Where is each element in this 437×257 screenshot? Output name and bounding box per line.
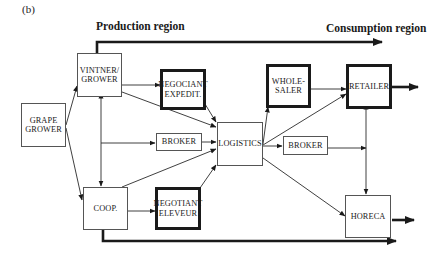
node-horeca: HORECA — [345, 195, 391, 238]
node-negotiant-eleveur: NEGOTIANTELEVEUR — [155, 187, 201, 230]
node-logistics: LOGISTICS — [217, 122, 263, 166]
node-coop: COOP. — [83, 187, 128, 230]
node-retailer: RETAILER — [346, 64, 392, 109]
node-grape-grower: GRAPEGROWER — [21, 103, 66, 147]
node-wholesaler: WHOLE-SALER — [266, 64, 311, 108]
node-negociant-expedit: NEGOCIANTEXPEDIT. — [160, 69, 206, 110]
node-broker-right: BROKER — [283, 136, 328, 155]
node-broker-left: BROKER — [156, 133, 202, 151]
node-vintner-grower: VINTNER/GROWER — [77, 53, 122, 97]
